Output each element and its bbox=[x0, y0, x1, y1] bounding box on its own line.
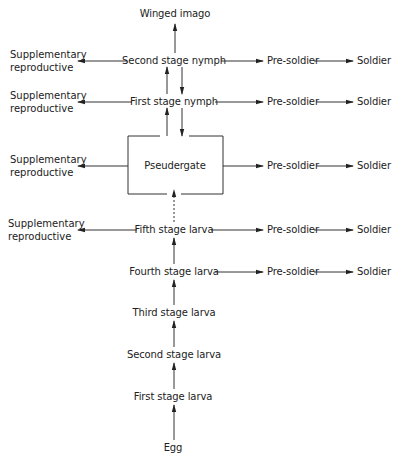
node-second-stage-nymph: Second stage nymph bbox=[122, 55, 226, 67]
node-supplementary-reproductive-1: Supplementary reproductive bbox=[10, 48, 87, 74]
node-supplementary-reproductive-4: Supplementary reproductive bbox=[8, 217, 85, 243]
supp-line1: Supplementary bbox=[8, 217, 85, 230]
node-second-stage-larva: Second stage larva bbox=[127, 349, 221, 361]
node-supplementary-reproductive-3: Supplementary reproductive bbox=[10, 153, 87, 179]
node-first-stage-nymph: First stage nymph bbox=[130, 96, 218, 108]
node-soldier-5: Soldier bbox=[357, 266, 391, 278]
node-fourth-stage-larva: Fourth stage larva bbox=[129, 266, 219, 278]
supp-line1: Supplementary bbox=[10, 153, 87, 166]
node-soldier-4: Soldier bbox=[357, 224, 391, 236]
supp-line2: reproductive bbox=[10, 166, 87, 179]
node-egg: Egg bbox=[164, 442, 183, 454]
supp-line2: reproductive bbox=[8, 230, 85, 243]
node-fifth-stage-larva: Fifth stage larva bbox=[135, 224, 214, 236]
supp-line1: Supplementary bbox=[10, 48, 87, 61]
node-pre-soldier-1: Pre-soldier bbox=[267, 55, 319, 67]
node-pre-soldier-2: Pre-soldier bbox=[267, 96, 319, 108]
node-soldier-3: Soldier bbox=[357, 160, 391, 172]
supp-line2: reproductive bbox=[10, 61, 87, 74]
node-soldier-2: Soldier bbox=[357, 96, 391, 108]
supp-line2: reproductive bbox=[10, 102, 87, 115]
node-pre-soldier-5: Pre-soldier bbox=[267, 266, 319, 278]
node-supplementary-reproductive-2: Supplementary reproductive bbox=[10, 89, 87, 115]
node-pre-soldier-4: Pre-soldier bbox=[267, 224, 319, 236]
node-first-stage-larva: First stage larva bbox=[134, 391, 213, 403]
node-soldier-1: Soldier bbox=[357, 55, 391, 67]
supp-line1: Supplementary bbox=[10, 89, 87, 102]
node-pseudergate: Pseudergate bbox=[144, 160, 205, 172]
node-third-stage-larva: Third stage larva bbox=[133, 307, 216, 319]
node-pre-soldier-3: Pre-soldier bbox=[267, 160, 319, 172]
node-winged-imago: Winged imago bbox=[140, 8, 211, 20]
